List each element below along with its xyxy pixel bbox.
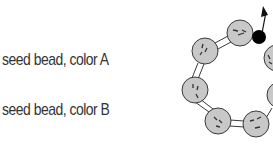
seed-bead: [205, 108, 231, 134]
seed-bead: [264, 45, 273, 71]
seed-bead: [182, 77, 208, 103]
seed-bead: [227, 20, 253, 46]
bead-ring-diagram: [0, 0, 273, 144]
accent-bead-black: [252, 30, 266, 44]
thread-direction-arrow-icon: [261, 6, 268, 33]
seed-bead: [243, 111, 269, 137]
seed-bead: [192, 38, 218, 64]
seed-bead: [267, 82, 273, 108]
